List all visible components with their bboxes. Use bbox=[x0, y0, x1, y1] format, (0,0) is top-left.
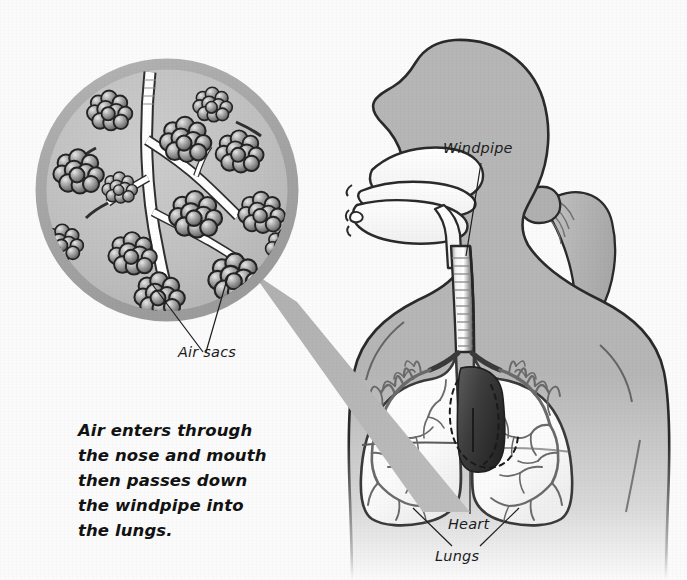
windpipe bbox=[451, 246, 474, 352]
lip-upper bbox=[346, 210, 349, 221]
magnifier-callout bbox=[41, 64, 306, 352]
caption-text: Air enters through the nose and mouth th… bbox=[78, 418, 318, 543]
nostril bbox=[347, 185, 352, 196]
label-windpipe: Windpipe bbox=[443, 141, 513, 156]
caption-line-5: the lungs. bbox=[78, 518, 318, 543]
caption-line-1: Air enters through bbox=[78, 418, 318, 443]
label-lungs: Lungs bbox=[435, 549, 479, 564]
lip-lower bbox=[347, 226, 351, 236]
caption-line-3: then passes down bbox=[78, 468, 318, 493]
label-heart: Heart bbox=[448, 517, 489, 532]
caption-line-4: the windpipe into bbox=[78, 493, 318, 518]
human-figure bbox=[346, 40, 669, 580]
diagram-page: Windpipe Heart Lungs Air sacs Air enters… bbox=[0, 0, 687, 580]
label-air-sacs: Air sacs bbox=[178, 345, 236, 360]
caption-line-2: the nose and mouth bbox=[78, 443, 318, 468]
mouth-opening bbox=[350, 212, 363, 222]
